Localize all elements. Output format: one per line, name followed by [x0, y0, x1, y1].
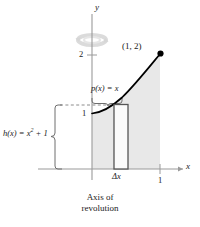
y-tick-1-label: 1 [82, 109, 86, 118]
x-tick-1-label: 1 [158, 176, 162, 185]
caption-line-1: Axis of [0, 192, 200, 203]
figure-caption: Axis of revolution [0, 192, 200, 215]
y-axis-label: y [95, 3, 99, 12]
height-label-suffix: + 1 [33, 128, 47, 138]
caption-line-2: revolution [0, 203, 200, 214]
endpoint-marker [157, 50, 163, 56]
radius-function-label: p(x) = x [91, 84, 118, 93]
shell-method-figure: y x 2 1 1 (1, 2) p(x) = x h(x) = x2 + 1 … [0, 0, 200, 227]
height-label-prefix: h(x) = x [3, 128, 30, 138]
x-axis-arrowhead [178, 166, 183, 171]
thickness-label: Δx [112, 172, 121, 181]
point-label: (1, 2) [122, 42, 142, 51]
x-axis-label: x [186, 162, 190, 171]
height-brace [51, 105, 62, 169]
y-tick-2-label: 2 [79, 50, 83, 59]
representative-rectangle [114, 105, 128, 170]
height-function-label: h(x) = x2 + 1 [3, 128, 48, 137]
